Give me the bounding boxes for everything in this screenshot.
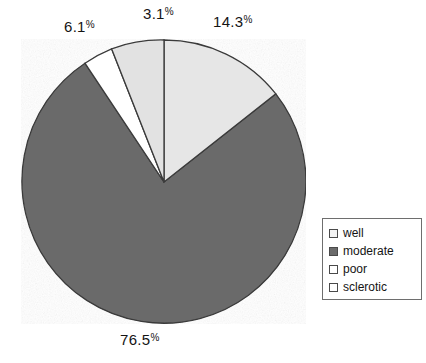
legend-swatch-sclerotic — [329, 283, 338, 292]
slice-label-poor-symbol: % — [86, 19, 95, 30]
slice-label-poor: 6.1% — [64, 18, 95, 35]
legend-item-moderate[interactable]: moderate — [329, 242, 421, 260]
legend-label-sclerotic: sclerotic — [343, 278, 387, 296]
pie-chart-figure: 14.3% 3.1% 6.1% 76.5% well moderate poor… — [0, 0, 426, 363]
legend-item-sclerotic[interactable]: sclerotic — [329, 278, 421, 296]
slice-label-sclerotic: 3.1% — [143, 5, 174, 22]
pie-chart-canvas — [0, 0, 426, 363]
legend-item-poor[interactable]: poor — [329, 260, 421, 278]
slice-label-moderate-symbol: % — [150, 332, 159, 343]
slice-label-sclerotic-symbol: % — [165, 6, 174, 17]
legend-swatch-well — [329, 229, 338, 238]
legend-swatch-moderate — [329, 247, 338, 256]
legend-label-well: well — [343, 224, 364, 242]
legend-label-poor: poor — [343, 260, 367, 278]
legend-item-well[interactable]: well — [329, 224, 421, 242]
slice-label-well-value: 14.3 — [213, 13, 243, 30]
slice-label-poor-value: 6.1 — [64, 18, 86, 35]
slice-label-moderate: 76.5% — [120, 331, 159, 348]
slice-label-well: 14.3% — [213, 13, 252, 30]
slice-label-moderate-value: 76.5 — [120, 331, 150, 348]
slice-label-well-symbol: % — [243, 14, 252, 25]
legend-label-moderate: moderate — [343, 242, 394, 260]
legend-swatch-poor — [329, 265, 338, 274]
slice-label-sclerotic-value: 3.1 — [143, 5, 165, 22]
chart-legend: well moderate poor sclerotic — [322, 218, 422, 300]
